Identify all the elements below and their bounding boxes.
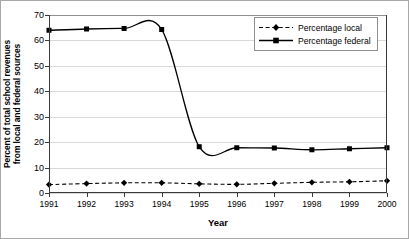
x-tick-label: 1998 (302, 199, 321, 209)
x-tick-mark (162, 193, 163, 197)
x-tick-mark (237, 193, 238, 197)
x-tick-label: 1993 (115, 199, 134, 209)
y-axis-title-line-1: Percent of total school revenues (2, 39, 12, 167)
x-tick-label: 1997 (265, 199, 284, 209)
x-tick-mark (387, 193, 388, 197)
x-tick-mark (274, 193, 275, 197)
x-tick-label: 1994 (152, 199, 171, 209)
x-tick-mark (199, 193, 200, 197)
legend-label: Percentage local (298, 23, 362, 33)
x-tick-mark (312, 193, 313, 197)
y-tick-label: 20 (34, 137, 44, 147)
legend-swatch-dashed-diamond (259, 22, 293, 33)
y-tick-label: 40 (34, 86, 44, 96)
x-tick-mark (124, 193, 125, 197)
x-tick-label: 1992 (77, 199, 96, 209)
chart-legend: Percentage local Percentage federal (254, 17, 378, 51)
x-tick-label: 2000 (377, 199, 396, 209)
x-tick-mark (349, 193, 350, 197)
x-tick-mark (49, 193, 50, 197)
chart-figure: Percent of total school revenues from lo… (0, 0, 409, 239)
x-tick-label: 1991 (39, 199, 58, 209)
y-tick-label: 10 (34, 163, 44, 173)
x-tick-label: 1995 (190, 199, 209, 209)
legend-item-percentage-federal: Percentage federal (259, 34, 371, 47)
legend-label: Percentage federal (298, 36, 371, 46)
x-tick-label: 1996 (227, 199, 246, 209)
legend-item-percentage-local: Percentage local (259, 21, 371, 34)
y-tick-label: 0 (39, 188, 44, 198)
y-tick-label: 70 (34, 10, 44, 20)
y-tick-label: 60 (34, 35, 44, 45)
x-tick-mark (87, 193, 88, 197)
x-tick-label: 1999 (340, 199, 359, 209)
y-tick-label: 30 (34, 112, 44, 122)
legend-swatch-solid-square (259, 35, 293, 46)
y-tick-label: 50 (34, 61, 44, 71)
x-axis-title: Year (49, 217, 387, 228)
gridline (49, 193, 387, 194)
y-axis-title-line-2: from local and federal sources (12, 43, 22, 163)
y-axis-title: Percent of total school revenues from lo… (1, 1, 31, 206)
